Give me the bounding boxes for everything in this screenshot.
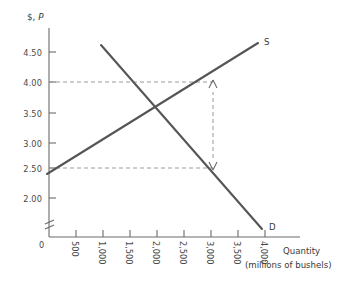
y-tick-label: 3.00 <box>12 139 42 149</box>
x-tick-marks <box>76 230 265 237</box>
y-tick-label: 2.00 <box>12 194 42 204</box>
chart-canvas <box>0 0 360 281</box>
gap-arrowhead-up <box>209 80 217 88</box>
x-tick-label-origin: 0 <box>39 240 44 250</box>
demand-curve-label: D <box>269 222 276 232</box>
x-tick-label: 2,500 <box>178 241 188 264</box>
x-tick-label: 1,000 <box>97 241 107 264</box>
chart-figure: 4.50 4.00 3.50 3.00 2.50 2.00 0 500 1,00… <box>0 0 360 281</box>
supply-curve-label: S <box>264 37 269 47</box>
y-tick-marks <box>49 52 56 198</box>
supply-curve <box>47 43 258 174</box>
x-tick-label: 1,500 <box>124 241 134 264</box>
x-axis-subtitle: (millions of bushels) <box>245 260 332 270</box>
x-axis-title: Quantity <box>283 246 320 256</box>
x-tick-label: 500 <box>70 241 80 257</box>
x-tick-label: 2,000 <box>151 241 161 264</box>
y-axis-title-p: P <box>38 12 43 22</box>
y-tick-label: 3.50 <box>12 109 42 119</box>
y-axis-title: $, P <box>27 12 44 22</box>
y-tick-label: 4.00 <box>12 78 42 88</box>
y-tick-label: 4.50 <box>12 48 42 58</box>
x-tick-label: 3,500 <box>232 241 242 264</box>
y-axis-title-dollar: $, <box>27 12 35 22</box>
demand-curve <box>101 45 262 229</box>
x-tick-label: 3,000 <box>205 241 215 264</box>
y-tick-label: 2.50 <box>12 164 42 174</box>
